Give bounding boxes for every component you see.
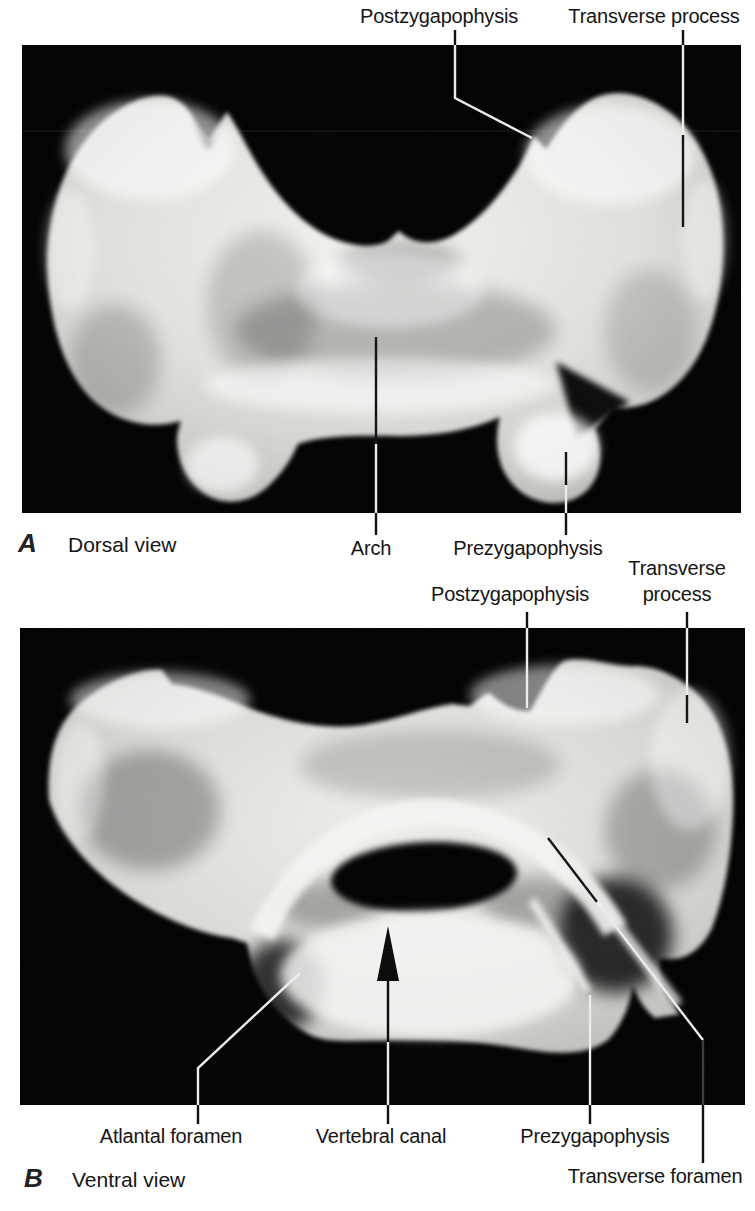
panel-b-caption: Ventral view — [72, 1168, 185, 1192]
label-b-postzygapophysis: Postzygapophysis — [431, 582, 589, 606]
label-b-vertebral-canal: Vertebral canal — [316, 1124, 446, 1148]
figure-plate: Postzygapophysis Transverse process A Do… — [0, 0, 755, 1211]
panel-a-letter: A — [18, 528, 37, 559]
label-a-arch: Arch — [351, 536, 391, 560]
label-a-postzygapophysis: Postzygapophysis — [360, 4, 518, 28]
label-b-transverse-process-line2: process — [643, 582, 712, 606]
panel-a-caption: Dorsal view — [68, 533, 177, 557]
panel-b-letter: B — [24, 1163, 43, 1194]
label-b-atlantal-foramen: Atlantal foramen — [100, 1124, 242, 1148]
label-b-transverse-foramen: Transverse foramen — [568, 1164, 743, 1188]
label-a-transverse-process: Transverse process — [568, 4, 739, 28]
label-a-prezygapophysis: Prezygapophysis — [453, 536, 602, 560]
label-b-transverse-process-line1: Transverse — [628, 556, 725, 580]
label-b-prezygapophysis: Prezygapophysis — [520, 1124, 669, 1148]
